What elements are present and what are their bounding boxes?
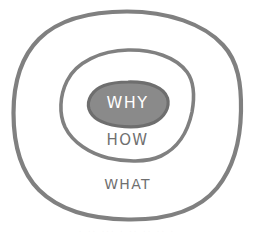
diagram-canvas	[0, 0, 255, 237]
bottom-faint-artifacts: · ·· ··· · ·· ·· ·· ·	[30, 228, 225, 234]
ring-label-why: WHY	[0, 93, 255, 112]
ring-label-how: HOW	[0, 131, 255, 149]
ring-label-what: WHAT	[0, 176, 255, 192]
golden-circle-diagram: WHY HOW WHAT · ·· ··· · ·· ·· ·· ·	[0, 0, 255, 237]
